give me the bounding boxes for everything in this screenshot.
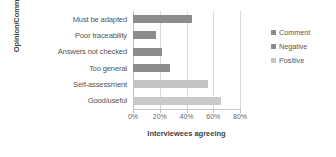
bar-row [133,44,240,60]
x-axis-tick-labels: 0%20%40%60%80% [133,113,240,124]
x-axis-tick-label: 0% [128,113,138,120]
bar-row [133,76,240,92]
bar-answers-not-checked [133,48,162,56]
y-axis-label-answers-not-checked: Answers not checked [22,44,130,60]
bar-row [133,11,240,27]
legend: Comment Negative Positive [271,28,310,65]
y-axis-label-self-assessment: Self-assessment [22,76,130,92]
legend-item-negative[interactable]: Negative [271,42,310,51]
legend-swatch-icon [271,44,276,49]
legend-item-positive[interactable]: Positive [271,56,310,65]
bar-must-be-adapted [133,15,192,23]
x-axis-title: Interviewees agreeing [133,129,240,138]
bar-self-assessment [133,80,208,88]
plot-area [133,11,240,109]
legend-item-comment[interactable]: Comment [271,28,310,37]
y-axis-title: Opinion/Comment [12,0,21,69]
x-axis-tick-label: 20% [153,113,167,120]
gridline [240,11,241,109]
y-axis-label-too-general: Too general [22,60,130,76]
legend-label: Comment [279,28,310,37]
bar-row [133,27,240,43]
y-axis-label-poor-traceability: Poor traceability [22,27,130,43]
bar-series-container [133,11,240,109]
legend-label: Positive [279,56,304,65]
x-axis-tick-label: 80% [233,113,247,120]
bar-too-general [133,64,170,72]
x-axis-tick-label: 60% [206,113,220,120]
legend-label: Negative [279,42,307,51]
bar-good-useful [133,97,221,105]
bar-row [133,93,240,109]
x-axis-tick-label: 40% [179,113,193,120]
bar-poor-traceability [133,31,156,39]
legend-swatch-icon [271,30,276,35]
y-axis-category-labels: Must be adapted Poor traceability Answer… [22,11,130,109]
y-axis-label-must-be-adapted: Must be adapted [22,11,130,27]
bar-chart: Opinion/Comment Must be adapted Poor tra… [0,0,336,157]
y-axis-label-good-useful: Good/useful [22,93,130,109]
bar-row [133,60,240,76]
legend-swatch-icon [271,58,276,63]
